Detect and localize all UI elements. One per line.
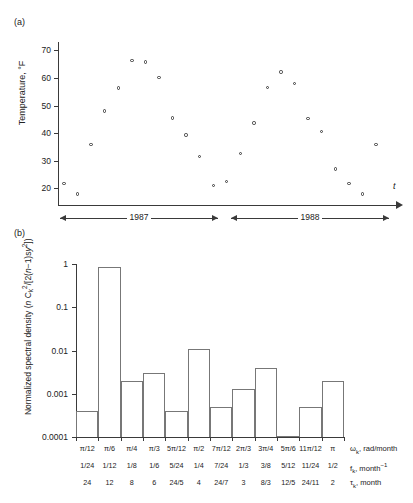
panel-a-data-point <box>374 143 377 146</box>
panel-b-bar <box>277 436 299 437</box>
panel-b-x-tick <box>232 437 233 441</box>
span-label-wrap: 1987 <box>60 212 218 222</box>
panel-a-data-point <box>347 182 350 185</box>
panel-b-bar-chart: Normalized spectral density (n Ck2/[2(n−… <box>0 240 413 503</box>
panel-a-y-tick-label: 60 <box>42 74 51 83</box>
panel-a-y-tick-label: 40 <box>42 129 51 138</box>
panel-b-x-tick <box>299 437 300 441</box>
panel-b-x-tick <box>143 437 144 441</box>
panel-a-data-point <box>320 130 323 133</box>
panel-a-year-label: 1987 <box>127 212 152 222</box>
panel-a-data-point <box>334 167 337 170</box>
panel-a-data-point <box>293 82 296 85</box>
panel-a-data-point <box>225 180 228 183</box>
panel-a-data-point <box>144 60 147 63</box>
panel-b-bar <box>188 349 210 437</box>
panel-a-y-axis-title: Temperature, °F <box>17 28 27 158</box>
panel-b-bar <box>121 381 143 437</box>
panel-b-bar <box>322 381 344 437</box>
panel-b-y-tick <box>72 264 77 265</box>
panel-b-x-tick <box>210 437 211 441</box>
span-label-wrap: 1988 <box>231 212 389 222</box>
panel-b-y-tick <box>72 351 77 352</box>
panel-b-x-label-tau: 2 <box>318 479 348 486</box>
panel-a-data-point <box>89 143 92 146</box>
panel-b-x-tick <box>322 437 323 441</box>
panel-a-y-tick-label: 30 <box>42 157 51 166</box>
panel-a-y-tick-label: 70 <box>42 46 51 55</box>
panel-b-x-tick <box>255 437 256 441</box>
panel-b-y-tick-label: 0.01 <box>51 347 68 356</box>
panel-b-x-tick <box>188 437 189 441</box>
panel-b-x-tick <box>277 437 278 441</box>
panel-b-x-tick <box>165 437 166 441</box>
panel-a-data-point <box>212 184 215 187</box>
panel-b-x-label-f: 1/2 <box>318 462 348 469</box>
panel-a-scatter-chart: Temperature, °F t 203040506070 1987 1988 <box>0 30 413 215</box>
panel-b-x-tick <box>344 437 345 441</box>
panel-a-data-point <box>239 152 242 155</box>
panel-a-data-point <box>266 86 269 89</box>
panel-a-data-point <box>171 116 174 119</box>
panel-a-data-point <box>130 59 133 62</box>
panel-b-bar <box>210 407 232 437</box>
panel-a-data-point <box>184 133 187 136</box>
panel-a-data-point <box>361 192 364 195</box>
panel-b-bar <box>143 373 165 437</box>
panel-a-x-axis-arrowhead <box>396 201 403 209</box>
panel-a-tag: (a) <box>14 17 25 27</box>
panel-b-bar <box>299 407 321 437</box>
figure-root: (a) Temperature, °F t 203040506070 1987 … <box>0 0 413 503</box>
panel-a-data-point <box>157 76 160 79</box>
panel-a-x-axis-line <box>58 205 398 206</box>
panel-b-x-tick <box>98 437 99 441</box>
panel-b-bar <box>76 411 98 437</box>
panel-b-y-tick-label: 0.0001 <box>42 433 68 442</box>
panel-b-y-tick-label: 0.001 <box>47 390 68 399</box>
panel-b-y-tick-label: 0.1 <box>56 303 68 312</box>
panel-a-year-label: 1988 <box>298 212 323 222</box>
panel-b-x-label-omega: π <box>318 445 348 452</box>
panel-a-year-span-1988: 1988 <box>231 212 389 224</box>
panel-b-y-tick <box>72 394 77 395</box>
panel-a-data-point <box>198 155 201 158</box>
panel-b-x-tick <box>121 437 122 441</box>
panel-a-y-tick-label: 50 <box>42 102 51 111</box>
panel-b-bar <box>165 411 187 437</box>
panel-a-data-point <box>76 192 79 195</box>
panel-b-row-name-tau: τk, month <box>350 479 381 489</box>
panel-b-row-name-omega: ωk, rad/month <box>350 445 397 455</box>
panel-b-bar <box>98 267 120 437</box>
panel-a-data-point <box>103 109 106 112</box>
panel-b-y-axis-title: Normalized spectral density (n Ck2/[2(n−… <box>21 224 35 429</box>
panel-b-bar <box>255 368 277 437</box>
panel-a-data-point <box>62 182 65 185</box>
panel-a-x-axis-title: t <box>393 181 396 191</box>
panel-b-y-tick <box>72 307 77 308</box>
panel-a-year-span-1987: 1987 <box>60 212 218 224</box>
panel-a-data-point <box>279 70 282 73</box>
panel-b-x-tick <box>76 437 77 441</box>
panel-b-y-tick-label: 1 <box>63 260 68 269</box>
panel-a-data-point <box>117 86 120 89</box>
panel-a-data-point <box>306 117 309 120</box>
panel-b-bar <box>232 389 254 437</box>
panel-a-y-tick-label: 20 <box>42 184 51 193</box>
panel-a-plot-area <box>58 42 388 202</box>
panel-a-data-point <box>252 121 255 124</box>
panel-b-row-name-f: fk, month−1 <box>350 462 387 474</box>
